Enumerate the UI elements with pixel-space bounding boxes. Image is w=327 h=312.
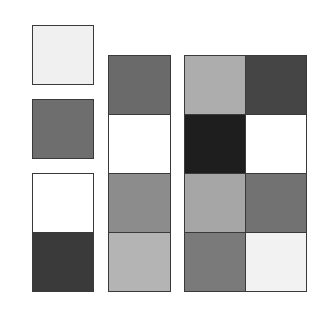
gray-cell: [246, 174, 306, 232]
gray-cell: [33, 174, 93, 232]
gray-cell: [246, 115, 306, 173]
single-square-light: [32, 25, 94, 85]
single-square-dark: [32, 99, 94, 159]
gray-cell: [33, 233, 93, 291]
gray-cell: [33, 100, 93, 158]
four-cell-column: [108, 55, 171, 292]
gray-cell: [109, 115, 170, 173]
gray-cell: [185, 233, 245, 291]
gray-cell: [109, 174, 170, 232]
two-cell-column: [32, 173, 94, 292]
gray-cell: [246, 233, 306, 291]
gray-cell: [33, 26, 93, 84]
gray-cell: [185, 56, 245, 114]
gray-cell: [246, 56, 306, 114]
gray-cell: [109, 56, 170, 114]
gray-cell: [185, 115, 245, 173]
gray-cell: [185, 174, 245, 232]
two-by-four-grid: [184, 55, 307, 292]
gray-cell: [109, 233, 170, 291]
